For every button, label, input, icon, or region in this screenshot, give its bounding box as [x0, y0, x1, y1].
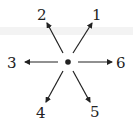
label-6: 6: [116, 54, 126, 72]
label-2: 2: [37, 6, 47, 24]
label-5: 5: [90, 103, 100, 121]
arrow-5: [73, 71, 90, 102]
center-dot: [65, 59, 71, 65]
label-3: 3: [7, 54, 17, 72]
arrow-2: [47, 23, 63, 53]
label-1: 1: [92, 6, 102, 24]
arrow-1: [73, 23, 92, 53]
arrow-4: [46, 71, 63, 102]
direction-diagram: 1 2 3 4 5 6: [0, 0, 133, 123]
label-4: 4: [36, 104, 46, 122]
